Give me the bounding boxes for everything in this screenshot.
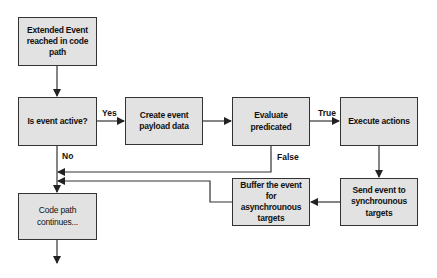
edge-label-yes: Yes [102, 108, 117, 118]
edge-label-true: True [318, 108, 336, 118]
node-is-event-active: Is event active? [18, 97, 97, 146]
node-extended-event-reached: Extended Event reached in code path [18, 17, 97, 66]
node-execute-actions: Execute actions [340, 97, 418, 146]
edge-label-false: False [277, 152, 299, 162]
node-evaluate-predicated: Evaluate predicated [232, 97, 310, 146]
node-send-event-sync: Send event to synchrounous targets [340, 178, 418, 226]
node-buffer-event-async: Buffer the event for asynchrounous targe… [232, 178, 310, 226]
node-code-path-continues: Code path continues... [18, 193, 97, 240]
node-create-event-payload: Create event payload data [125, 97, 203, 145]
edge-label-no: No [62, 151, 73, 161]
